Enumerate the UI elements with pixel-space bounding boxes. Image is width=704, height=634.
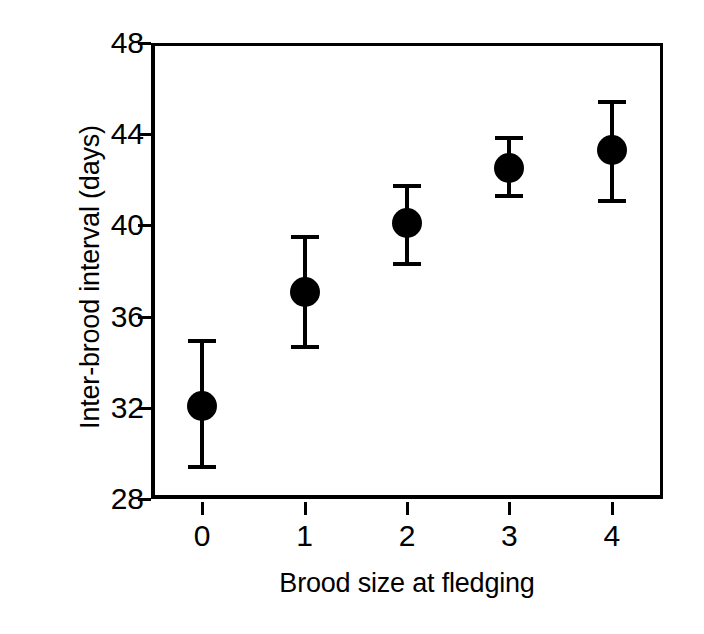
error-bar-cap-lower: [393, 262, 421, 266]
y-tick-label: 48: [111, 28, 144, 58]
x-tick-label: 1: [296, 521, 313, 551]
top-spine: [151, 43, 663, 46]
x-axis-title: Brood size at fledging: [151, 568, 663, 599]
x-tick-label: 3: [501, 521, 518, 551]
right-spine: [660, 43, 663, 499]
error-bar-cap-upper: [393, 184, 421, 188]
y-tick-label: 32: [111, 393, 144, 423]
data-marker: [187, 391, 217, 421]
data-marker: [290, 277, 320, 307]
error-bar-cap-upper: [188, 339, 216, 343]
y-tick-label: 36: [111, 302, 144, 332]
x-tick-label: 2: [399, 521, 416, 551]
x-tick-mark: [201, 502, 204, 515]
y-tick-label: 28: [111, 484, 144, 514]
error-bar-cap-lower: [495, 194, 523, 198]
chart-figure: Inter-brood interval (days) 283236404448…: [0, 0, 704, 634]
error-bar-cap-lower: [188, 465, 216, 469]
x-tick-label: 4: [603, 521, 620, 551]
error-bar-cap-upper: [598, 100, 626, 104]
x-tick-label: 0: [194, 521, 211, 551]
error-bar-cap-upper: [291, 235, 319, 239]
data-marker: [392, 208, 422, 238]
y-tick-label: 40: [111, 210, 144, 240]
error-bar-cap-lower: [598, 199, 626, 203]
data-marker: [494, 153, 524, 183]
x-axis-line: [151, 495, 663, 499]
y-axis-title: Inter-brood interval (days): [60, 42, 120, 512]
x-tick-mark: [406, 502, 409, 515]
x-tick-mark: [304, 502, 307, 515]
error-bar-cap-upper: [495, 136, 523, 140]
y-axis-line: [151, 43, 155, 499]
data-marker: [597, 135, 627, 165]
plot-area: 283236404448 01234: [151, 43, 663, 499]
y-tick-label: 44: [111, 119, 144, 149]
error-bar-cap-lower: [291, 345, 319, 349]
x-tick-mark: [611, 502, 614, 515]
x-tick-mark: [508, 502, 511, 515]
